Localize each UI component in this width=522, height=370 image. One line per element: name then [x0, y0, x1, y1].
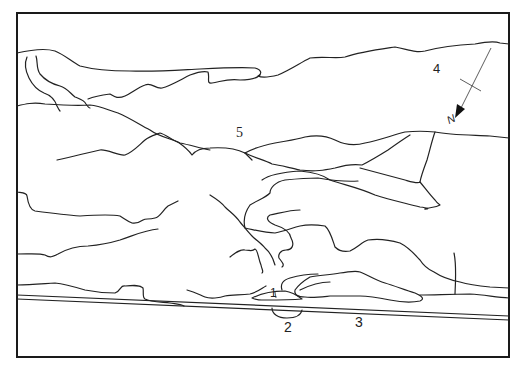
- feature-label-1: 1: [270, 287, 277, 299]
- spur-line-4: [187, 286, 266, 298]
- base-terrace-right: [420, 294, 509, 298]
- valley-line-right-2: [420, 132, 435, 182]
- terrace-line-upper: [88, 72, 260, 99]
- valley-line-right-1: [245, 135, 410, 171]
- drainage-line-2: [36, 56, 90, 108]
- lobe-line-left-1: [57, 133, 210, 160]
- road-line-lower: [17, 299, 509, 320]
- sketch-map-figure: 1 2 3 4 5 N: [0, 0, 522, 370]
- map-drawing: [0, 0, 522, 370]
- lobe-line-right-outer: [281, 274, 330, 290]
- road-line-upper: [17, 295, 509, 316]
- spur-line-1: [262, 171, 428, 209]
- feature-label-5: 5: [236, 126, 243, 140]
- ridge-line-center: [245, 131, 509, 153]
- feature-label-2: 2: [284, 320, 292, 334]
- vertical-divide-right: [454, 253, 456, 294]
- lobe-line-left-2: [17, 192, 178, 223]
- ridge-line-mid: [17, 103, 252, 160]
- north-arrow-icon: [455, 48, 491, 118]
- spur-line-3: [230, 249, 263, 273]
- meander-line-1: [244, 178, 509, 288]
- lobe-line-left-3: [17, 229, 158, 257]
- feature-label-4: 4: [433, 62, 440, 75]
- valley-line-right-3: [360, 168, 440, 209]
- spur-line-2: [210, 195, 275, 265]
- lobe-line-right-lower: [295, 271, 423, 302]
- feature-label-3: 3: [355, 315, 363, 329]
